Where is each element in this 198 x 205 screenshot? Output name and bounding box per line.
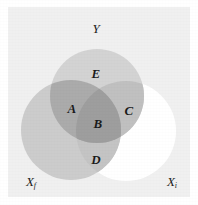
region-label-a: A <box>68 102 77 115</box>
set-label-xf-subscript: f <box>34 181 36 190</box>
region-label-b: B <box>94 117 103 130</box>
set-label-xi: Xi <box>167 175 177 190</box>
region-label-e: E <box>92 67 101 80</box>
set-label-xi-subscript: i <box>175 181 177 190</box>
set-label-xf-text: X <box>26 174 34 189</box>
set-label-y-text: Y <box>92 21 99 36</box>
set-label-xi-text: X <box>167 174 175 189</box>
set-label-y: Y <box>92 22 99 37</box>
region-label-c: C <box>125 104 134 117</box>
venn-diagram-figure: Y Xf Xi E A B C D <box>0 0 198 205</box>
set-label-xf: Xf <box>26 175 36 190</box>
region-label-d: D <box>91 153 101 166</box>
